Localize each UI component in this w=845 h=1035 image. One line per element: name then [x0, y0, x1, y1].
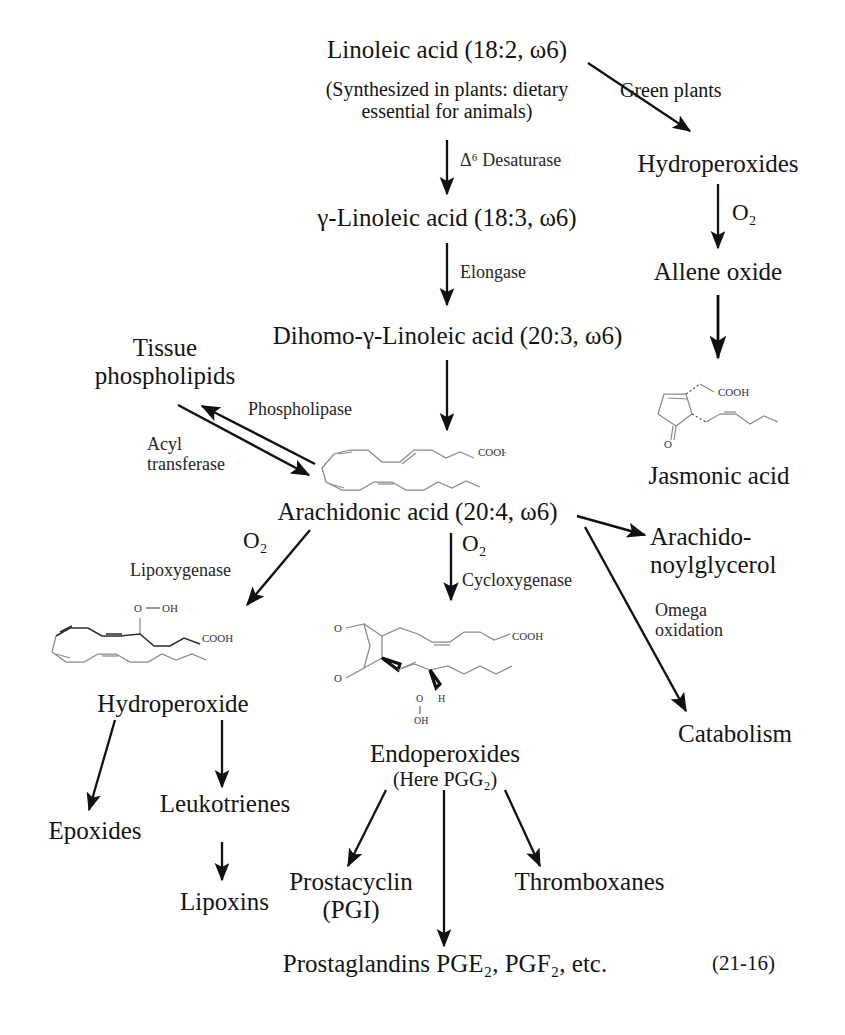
prostacyclin-line-2: (PGI) — [276, 896, 426, 924]
label-phospholipase: Phospholipase — [248, 399, 418, 419]
node-epoxides: Epoxides — [20, 817, 170, 845]
label-cycloxygenase: Cycloxygenase — [462, 570, 642, 590]
pgg2-cooh-label: COOH — [512, 630, 543, 642]
linoleic-note-line-1: (Synthesized in plants: dietary — [247, 78, 647, 100]
jasmonic-o-label: O — [664, 438, 672, 450]
hydroperoxide-cooh-label: COOH — [202, 632, 233, 644]
tissue-phospholipids-line-2: phospholipids — [70, 362, 260, 390]
acyl-transferase-line-1: Acyl — [147, 434, 267, 454]
node-dihomo-gamma-linoleic-acid: Dihomo-γ-Linoleic acid (20:3, ω6) — [215, 322, 680, 350]
label-o2-cycloxygenase: O₂ — [462, 531, 522, 557]
label-o2-allene: O₂ — [732, 200, 792, 226]
pgg2-o-top-label: O — [334, 622, 342, 634]
pgg2-o-label: O — [416, 693, 423, 704]
node-jasmonic-acid: Jasmonic acid — [606, 462, 832, 490]
node-endoperoxides: Endoperoxides — [330, 740, 560, 768]
node-prostaglandins: Prostaglandins PGE₂, PGF₂, etc. — [215, 950, 675, 978]
hydroperoxide-structure: O OH COOH — [36, 596, 286, 682]
plate-number: (21-16) — [712, 952, 822, 976]
label-omega-oxidation: Omega oxidation — [655, 600, 795, 640]
pgg2-h-label: H — [438, 693, 445, 704]
node-gamma-linoleic-acid: γ-Linoleic acid (18:3, ω6) — [247, 204, 647, 232]
arrow-hydroperoxide-to-epoxides — [89, 720, 115, 810]
node-hydroperoxide: Hydroperoxide — [48, 690, 298, 718]
node-arachidonic-acid: Arachidonic acid (20:4, ω6) — [255, 498, 580, 526]
arachidonoylglycerol-line-2: noylglycerol — [650, 551, 845, 579]
arrow-to-arachidonoylglycerol — [577, 516, 645, 535]
arachidonic-cooh-label: COOH — [478, 446, 506, 458]
omega-oxidation-line-1: Omega — [655, 600, 795, 620]
node-tissue-phospholipids: Tissue phospholipids — [70, 334, 260, 390]
hydroperoxide-o-label: O — [134, 602, 142, 614]
hydroperoxide-oh-label: OH — [162, 602, 178, 614]
tissue-phospholipids-line-1: Tissue — [70, 334, 260, 362]
node-linoleic-acid-note: (Synthesized in plants: dietary essentia… — [247, 78, 647, 123]
label-lipoxygenase: Lipoxygenase — [130, 560, 290, 580]
node-endoperoxides-note: (Here PGG₂) — [330, 768, 560, 790]
arrow-endoperoxides-to-prostacyclin — [348, 790, 386, 866]
pgg2-oh-label: OH — [414, 715, 428, 724]
label-green-plants: Green plants — [620, 79, 810, 101]
arachidonic-acid-structure: COOH — [316, 432, 506, 500]
acyl-transferase-line-2: transferase — [147, 454, 267, 474]
arrow-endoperoxides-to-thromboxanes — [505, 790, 540, 866]
label-acyl-transferase: Acyl transferase — [147, 434, 267, 474]
pgg2-o-bottom-label: O — [334, 672, 342, 684]
node-catabolism: Catabolism — [630, 720, 840, 748]
node-thromboxanes: Thromboxanes — [482, 868, 697, 896]
pgg2-structure: O O O H OH COOH — [330, 606, 580, 724]
node-hydroperoxides: Hydroperoxides — [598, 150, 838, 178]
node-allene-oxide: Allene oxide — [608, 258, 828, 286]
jasmonic-acid-structure: COOH O — [644, 370, 810, 456]
jasmonic-cooh-label: COOH — [718, 386, 749, 398]
linoleic-note-line-2: essential for animals) — [247, 100, 647, 122]
delta6-desaturase-text: Δ⁶ Desaturase — [460, 150, 561, 170]
arachidonoylglycerol-line-1: Arachido- — [650, 523, 845, 551]
node-leukotrienes: Leukotrienes — [125, 790, 325, 818]
pathway-figure: COOH COOH O O OH COOH O O — [0, 0, 845, 1035]
prostacyclin-line-1: Prostacyclin — [276, 868, 426, 896]
node-linoleic-acid: Linoleic acid (18:2, ω6) — [247, 36, 647, 64]
label-delta6-desaturase: Δ⁶ Desaturase — [460, 150, 620, 170]
omega-oxidation-line-2: oxidation — [655, 620, 795, 640]
node-arachidonoylglycerol: Arachido- noylglycerol — [650, 523, 845, 579]
node-prostacyclin: Prostacyclin (PGI) — [276, 868, 426, 924]
label-o2-lipoxygenase: O₂ — [243, 528, 303, 554]
label-elongase: Elongase — [460, 262, 600, 282]
